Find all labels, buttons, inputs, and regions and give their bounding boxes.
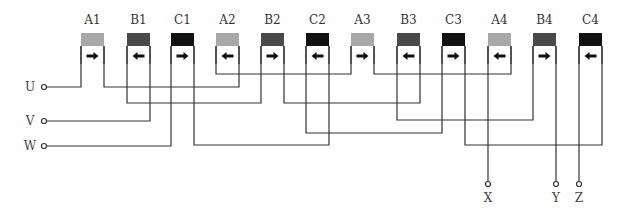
arrow-left-icon [494, 52, 506, 60]
terminal-label: W [24, 139, 37, 153]
arrow-left-icon [133, 52, 145, 60]
coil-label: B4 [536, 13, 553, 27]
coil-c2: C2 [306, 13, 329, 64]
terminal-label: U [25, 80, 35, 94]
coil-cap [579, 33, 602, 46]
coil-label: A1 [83, 13, 100, 27]
coil-a1: A1 [81, 13, 104, 64]
coil-cap [397, 33, 420, 46]
wires [47, 46, 602, 181]
coil-label: B3 [400, 13, 416, 27]
arrow-left-icon [312, 52, 324, 60]
coil-label: C3 [445, 13, 462, 27]
coil-cap [171, 33, 194, 46]
coil-label: C2 [309, 13, 326, 27]
coil-label: A2 [218, 13, 235, 27]
coil-cap [306, 33, 329, 46]
coil-cap [127, 33, 150, 46]
coil-cap [261, 33, 284, 46]
coil-cap [442, 33, 465, 46]
coil-label: A3 [353, 13, 370, 27]
coil-b3: B3 [397, 13, 420, 64]
arrow-left-icon [403, 52, 415, 60]
wire [47, 46, 171, 146]
terminal-w: W [24, 139, 47, 153]
coil-c4: C4 [579, 13, 602, 64]
arrow-left-icon [222, 52, 234, 60]
terminals: UVWXYZ [24, 80, 583, 205]
coil-c1: C1 [171, 13, 194, 64]
terminal-u: U [25, 80, 47, 94]
coil-b1: B1 [127, 13, 150, 64]
winding-diagram: A1B1C1A2B2C2A3B3C3A4B4C4 UVWXYZ [0, 0, 631, 218]
terminal-x: X [484, 182, 493, 206]
terminal-circle-icon [42, 119, 47, 124]
terminal-label: Z [575, 191, 583, 205]
coil-cap [351, 33, 374, 46]
coil-b2: B2 [261, 13, 284, 64]
arrow-right-icon [177, 52, 189, 60]
coil-cap [216, 33, 239, 46]
coil-b4: B4 [533, 13, 556, 64]
terminal-y: Y [551, 182, 561, 206]
terminal-circle-icon [42, 144, 47, 149]
coil-a4: A4 [488, 13, 511, 64]
coil-c3: C3 [442, 13, 465, 64]
coil-cap [488, 33, 511, 46]
arrow-right-icon [357, 52, 369, 60]
coil-label: A4 [490, 13, 508, 27]
terminal-label: V [25, 114, 35, 128]
terminal-circle-icon [577, 182, 582, 187]
terminal-z: Z [575, 182, 583, 206]
terminal-v: V [25, 114, 47, 128]
terminal-circle-icon [486, 182, 491, 187]
arrow-right-icon [448, 52, 460, 60]
coils: A1B1C1A2B2C2A3B3C3A4B4C4 [81, 13, 602, 64]
coil-label: C1 [174, 13, 191, 27]
coil-cap [81, 33, 104, 46]
terminal-label: Y [551, 191, 561, 205]
terminal-circle-icon [554, 182, 559, 187]
arrow-right-icon [87, 52, 99, 60]
arrow-right-icon [267, 52, 279, 60]
coil-a2: A2 [216, 13, 239, 64]
terminal-circle-icon [42, 85, 47, 90]
coil-label: B1 [130, 13, 146, 27]
coil-label: C4 [582, 13, 599, 27]
arrow-left-icon [585, 52, 597, 60]
arrow-right-icon [539, 52, 551, 60]
wire [47, 46, 81, 87]
coil-cap [533, 33, 556, 46]
coil-a3: A3 [351, 13, 374, 64]
coil-label: B2 [264, 13, 280, 27]
terminal-label: X [484, 191, 493, 205]
